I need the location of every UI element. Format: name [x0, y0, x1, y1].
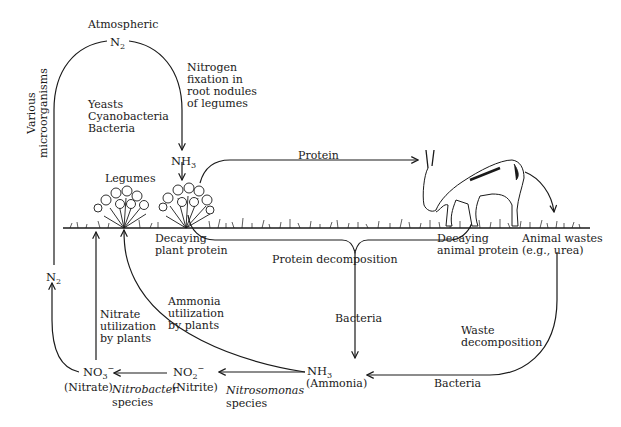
- nitrosomonas-species-label: species: [226, 398, 267, 410]
- various-microorganisms-label: Various microorganisms: [26, 68, 50, 158]
- n2-atmospheric: N2: [110, 36, 125, 48]
- denitrification-line: [54, 41, 107, 265]
- decaying-plant-label: Decaying plant protein: [155, 233, 228, 257]
- protein-label: Protein: [298, 150, 339, 162]
- protein-arrow: [200, 160, 418, 183]
- nitrate-util-line-3: by plants: [100, 333, 156, 345]
- ammonia-utilization-label: Ammonia utilization by plants: [168, 296, 224, 332]
- no3-to-n2-arrow: [52, 283, 79, 372]
- n2-sub: 2: [120, 42, 125, 51]
- no3-label: NO3−: [83, 366, 114, 378]
- decaying-animal-line-2: animal protein: [437, 245, 519, 257]
- nitrate-name-label: (Nitrate): [64, 382, 113, 394]
- legumes-label: Legumes: [105, 173, 156, 185]
- protein-decomposition-label: Protein decomposition: [272, 254, 398, 266]
- protein-decomposition-brace: [188, 215, 472, 252]
- nh3-bottom: NH3: [307, 365, 332, 377]
- fixer-bacteria: Bacteria: [88, 123, 169, 135]
- bacteria-center-label: Bacteria: [335, 313, 382, 325]
- waste-decomposition-label: Waste decomposition: [461, 325, 542, 349]
- fixation-label: Nitrogen fixation in root nodules of leg…: [187, 62, 257, 110]
- no3-sup: −: [108, 364, 115, 373]
- n2-base: N: [110, 35, 120, 49]
- nitrobacter-label: Nitrobacter: [112, 384, 177, 396]
- no2-sub: 2: [193, 372, 198, 381]
- nh3-top: NH3: [171, 155, 196, 167]
- decaying-plant-line-2: plant protein: [155, 245, 228, 257]
- animal-wastes-label: Animal wastes (e.g., urea): [522, 233, 603, 257]
- nitrogen-cycle-diagram: Atmospheric N2 Nitrogen fixation in root…: [0, 0, 621, 427]
- no2-sup: −: [198, 364, 205, 373]
- fixation-line-4: of legumes: [187, 98, 257, 110]
- legume-plant-left: [94, 186, 149, 228]
- animal-wastes-line-2: (e.g., urea): [522, 245, 603, 257]
- n2-left: N2: [46, 271, 61, 283]
- no3-base: NO: [83, 365, 103, 379]
- nh3-bottom-base: NH: [307, 364, 327, 378]
- nitrogen-fixers-label: Yeasts Cyanobacteria Bacteria: [88, 99, 169, 135]
- legume-plant-center: [159, 183, 214, 228]
- ammonia-util-line-3: by plants: [168, 320, 224, 332]
- nh3-base: NH: [171, 154, 191, 168]
- ammonia-name-label: (Ammonia): [306, 378, 367, 390]
- various-line-2: microorganisms: [38, 68, 50, 158]
- waste-line-2: decomposition: [461, 337, 542, 349]
- waste-decomposition-arrow: [367, 252, 557, 375]
- no3-sub: 3: [103, 372, 108, 381]
- diagram-artwork: [0, 0, 621, 427]
- gazelle: [423, 150, 524, 226]
- nitrobacter-species-label: species: [112, 397, 153, 409]
- nitrite-name-label: (Nitrite): [172, 382, 218, 394]
- nh3-sub: 3: [191, 161, 196, 170]
- atmospheric-label: Atmospheric: [88, 19, 158, 31]
- bacteria-bottom-label: Bacteria: [434, 378, 481, 390]
- nitrate-utilization-label: Nitrate utilization by plants: [100, 309, 156, 345]
- ground-grass: [63, 218, 590, 228]
- n2-left-base: N: [46, 270, 56, 284]
- no2-base: NO: [173, 365, 193, 379]
- n2-left-sub: 2: [56, 277, 61, 286]
- decaying-animal-label: Decaying animal protein: [437, 233, 519, 257]
- waste-drop-arrow: [525, 172, 554, 212]
- no2-label: NO2−: [173, 366, 204, 378]
- nitrosomonas-label: Nitrosomonas: [226, 385, 304, 397]
